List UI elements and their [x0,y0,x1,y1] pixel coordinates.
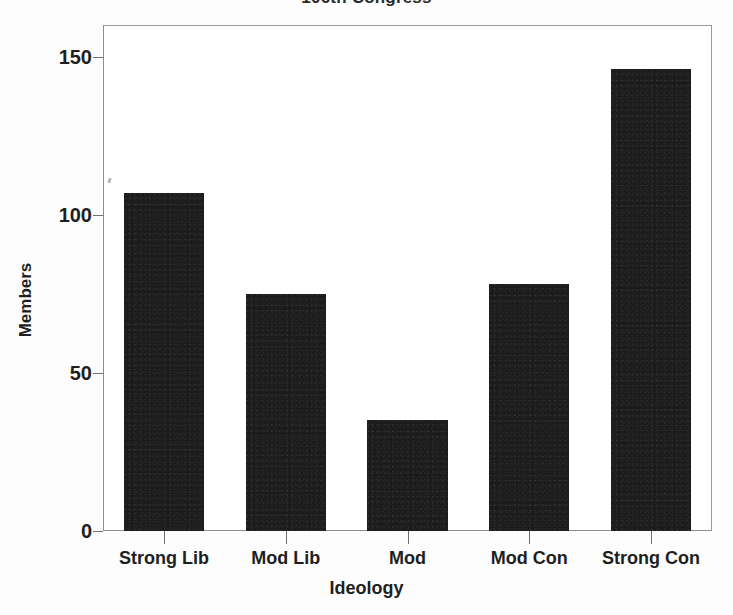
chart-title: 106th Congress [0,0,733,8]
y-tick-label-150: 150 [28,45,92,68]
bar-mod-con [489,284,569,531]
y-tick-label-50: 50 [28,361,92,384]
x-tick-mark-mod-con [529,531,530,544]
x-tick-mark-strong-lib [164,531,165,544]
x-axis-tick-labels: Strong Lib Mod Lib Mod Mod Con Strong Co… [0,548,733,574]
y-tick-mark-100 [93,215,103,216]
bar-chart: 106th Congress 0 50 100 150 Members Stro… [0,0,733,615]
bar-strong-lib [124,193,204,531]
y-tick-label-100: 100 [28,203,92,226]
plot-area [103,25,712,531]
y-axis-title: Members [16,230,36,370]
y-axis-tick-marks [93,0,105,615]
x-tick-mark-strong-con [651,531,652,544]
x-axis-title: Ideology [0,578,733,599]
x-axis-tick-marks [0,531,733,545]
x-tick-mark-mod-lib [286,531,287,544]
bar-strong-con [611,69,691,531]
x-tick-label-strong-con: Strong Con [576,548,726,569]
bar-mod [367,420,447,531]
y-tick-mark-150 [93,57,103,58]
y-tick-mark-50 [93,373,103,374]
x-tick-mark-mod [408,531,409,544]
bar-mod-lib [246,294,326,531]
